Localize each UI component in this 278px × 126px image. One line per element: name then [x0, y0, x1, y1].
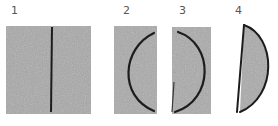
straight-cut-line — [51, 27, 52, 112]
panel-4-d-shape — [237, 25, 268, 112]
tile-square — [6, 26, 91, 114]
panel-1-square-tile — [6, 26, 91, 114]
tile-d-shape — [240, 25, 268, 112]
tile-rectangle — [114, 26, 157, 114]
figure-illustration — [0, 0, 278, 126]
panel-2-arc-tile — [114, 26, 157, 114]
panel-3-cut-piece — [172, 27, 211, 114]
